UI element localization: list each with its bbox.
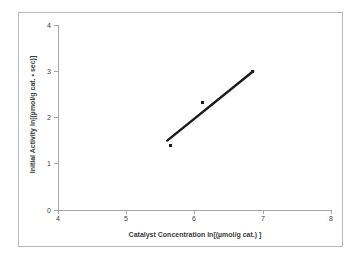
chart-outer-frame: 0 1 2 3 4 4 5 6 7 8 Catalyst Concentrati…: [18, 12, 343, 247]
chart-figure: 0 1 2 3 4 4 5 6 7 8 Catalyst Concentrati…: [0, 0, 359, 257]
trendline: [58, 25, 331, 210]
x-axis-title: Catalyst Concentration ln[(µmol/g cat.) …: [58, 231, 332, 238]
y-tick-label-3: 3: [37, 68, 51, 75]
x-tick-label-4: 4: [50, 215, 66, 222]
x-tick-8: [331, 210, 332, 214]
y-axis-title: Initial Activity ln[(µmol/g cat. • sec)]: [29, 40, 36, 190]
x-tick-label-8: 8: [323, 215, 339, 222]
data-point: [201, 101, 204, 104]
x-tick-label-7: 7: [255, 215, 271, 222]
x-tick-7: [263, 210, 264, 214]
data-point: [251, 70, 254, 73]
x-tick-label-6: 6: [186, 215, 202, 222]
y-tick-label-4: 4: [37, 22, 51, 29]
x-tick-5: [126, 210, 127, 214]
x-tick-6: [194, 210, 195, 214]
y-tick-label-2: 2: [37, 114, 51, 121]
plot-area: [58, 25, 331, 210]
x-tick-label-5: 5: [118, 215, 134, 222]
y-tick-label-1: 1: [37, 160, 51, 167]
y-tick-label-0: 0: [37, 207, 51, 214]
data-point: [169, 144, 172, 147]
x-tick-4: [58, 210, 59, 214]
x-axis-line: [58, 210, 332, 211]
